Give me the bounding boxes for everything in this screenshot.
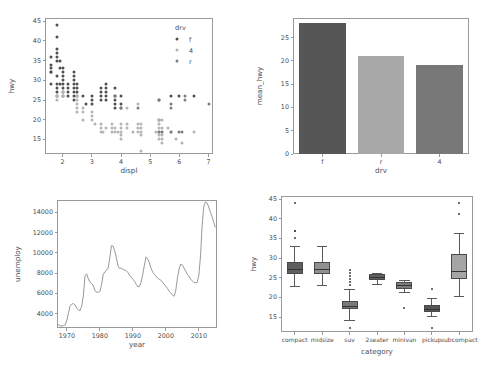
scatter-point bbox=[160, 130, 163, 133]
scatter-point bbox=[61, 83, 64, 86]
scatter-point bbox=[81, 110, 84, 113]
scatter-point bbox=[111, 122, 114, 125]
axis-spine-bottom bbox=[45, 153, 213, 154]
box-outlier bbox=[294, 237, 296, 239]
scatter-point bbox=[105, 95, 108, 98]
bar-f[interactable] bbox=[299, 23, 346, 154]
x-tick-label: 4 bbox=[410, 158, 470, 166]
whisker-lower bbox=[294, 274, 295, 287]
scatter-point bbox=[76, 110, 79, 113]
scatter-point bbox=[169, 95, 172, 98]
scatter-point bbox=[193, 130, 196, 133]
box-median bbox=[342, 306, 358, 307]
bar-4[interactable] bbox=[416, 65, 463, 154]
scatter-point bbox=[73, 75, 76, 78]
x-tick bbox=[179, 154, 180, 157]
scatter-point bbox=[169, 106, 172, 109]
scatter-point bbox=[193, 95, 196, 98]
scatter-point bbox=[90, 110, 93, 113]
box-body bbox=[287, 262, 303, 274]
scatter-point bbox=[81, 106, 84, 109]
legend-marker-f bbox=[176, 38, 179, 41]
bar-r[interactable] bbox=[358, 56, 405, 154]
whisker-lower bbox=[349, 309, 350, 320]
box-outlier bbox=[349, 327, 351, 329]
box-median bbox=[369, 277, 385, 278]
y-tick bbox=[43, 139, 46, 140]
whisker-cap-lower bbox=[372, 284, 382, 285]
scatter-point bbox=[184, 98, 187, 101]
whisker-cap-upper bbox=[290, 246, 300, 247]
line-chart-axes: 4000600080001000012000140001970198019902… bbox=[57, 200, 217, 328]
scatter-point bbox=[160, 138, 163, 141]
scatter-point bbox=[119, 102, 122, 105]
scatter-point bbox=[99, 126, 102, 129]
scatter-point bbox=[181, 130, 184, 133]
box-median bbox=[314, 269, 330, 270]
scatter-point bbox=[105, 87, 108, 90]
whisker-upper bbox=[322, 246, 323, 262]
x-tick bbox=[439, 154, 440, 157]
box-outlier bbox=[349, 278, 351, 280]
x-tick bbox=[121, 154, 122, 157]
box-outlier bbox=[349, 272, 351, 274]
x-tick bbox=[208, 154, 209, 157]
x-tick bbox=[377, 332, 378, 335]
figure-canvas: 15202530354045234567displhwydrvf4r051015… bbox=[0, 0, 499, 372]
scatter-point bbox=[55, 35, 58, 38]
x-tick bbox=[99, 328, 100, 331]
y-tick-label: 4000 bbox=[21, 310, 53, 318]
scatter-point bbox=[81, 118, 84, 121]
whisker-cap-upper bbox=[344, 289, 354, 290]
scatter-point bbox=[157, 130, 160, 133]
y-axis-label: hwy bbox=[7, 18, 16, 154]
x-tick bbox=[66, 328, 67, 331]
scatter-point bbox=[119, 130, 122, 133]
y-tick bbox=[43, 80, 46, 81]
scatter-point bbox=[140, 150, 143, 153]
scatter-point bbox=[99, 98, 102, 101]
legend-label-r: r bbox=[189, 58, 192, 66]
scatter-point bbox=[49, 63, 52, 66]
box-outlier bbox=[349, 269, 351, 271]
scatter-point bbox=[119, 95, 122, 98]
whisker-cap-lower bbox=[317, 285, 327, 286]
legend-label-f: f bbox=[189, 36, 191, 44]
whisker-cap-lower bbox=[399, 292, 409, 293]
scatter-point bbox=[76, 95, 79, 98]
scatter-point bbox=[137, 106, 140, 109]
whisker-lower bbox=[459, 279, 460, 297]
scatter-point bbox=[81, 95, 84, 98]
scatter-point bbox=[157, 98, 160, 101]
legend-marker-4 bbox=[176, 49, 179, 52]
y-tick bbox=[43, 21, 46, 22]
scatter-point bbox=[93, 122, 96, 125]
scatter-point bbox=[184, 95, 187, 98]
y-tick bbox=[279, 218, 282, 219]
x-tick bbox=[62, 154, 63, 157]
x-tick-label: r bbox=[351, 158, 411, 166]
scatter-point bbox=[125, 106, 128, 109]
y-tick bbox=[279, 258, 282, 259]
x-axis-label: drv bbox=[293, 166, 469, 175]
axis-spine-top bbox=[281, 196, 473, 197]
scatter-point bbox=[99, 91, 102, 94]
scatter-point bbox=[137, 102, 140, 105]
whisker-cap-upper bbox=[454, 233, 464, 234]
whisker-cap-lower bbox=[344, 320, 354, 321]
scatter-point bbox=[76, 106, 79, 109]
scatter-point bbox=[119, 138, 122, 141]
scatter-point bbox=[140, 126, 143, 129]
axis-spine-left bbox=[293, 18, 294, 154]
scatter-point bbox=[90, 114, 93, 117]
axis-spine-right bbox=[468, 18, 469, 154]
y-tick bbox=[291, 84, 294, 85]
axis-spine-left bbox=[45, 18, 46, 154]
scatter-point bbox=[160, 118, 163, 121]
scatter-point bbox=[49, 83, 52, 86]
x-tick bbox=[431, 332, 432, 335]
scatter-point bbox=[76, 83, 79, 86]
y-axis-label: unemploy bbox=[13, 200, 22, 328]
whisker-upper bbox=[294, 246, 295, 262]
x-tick bbox=[165, 328, 166, 331]
